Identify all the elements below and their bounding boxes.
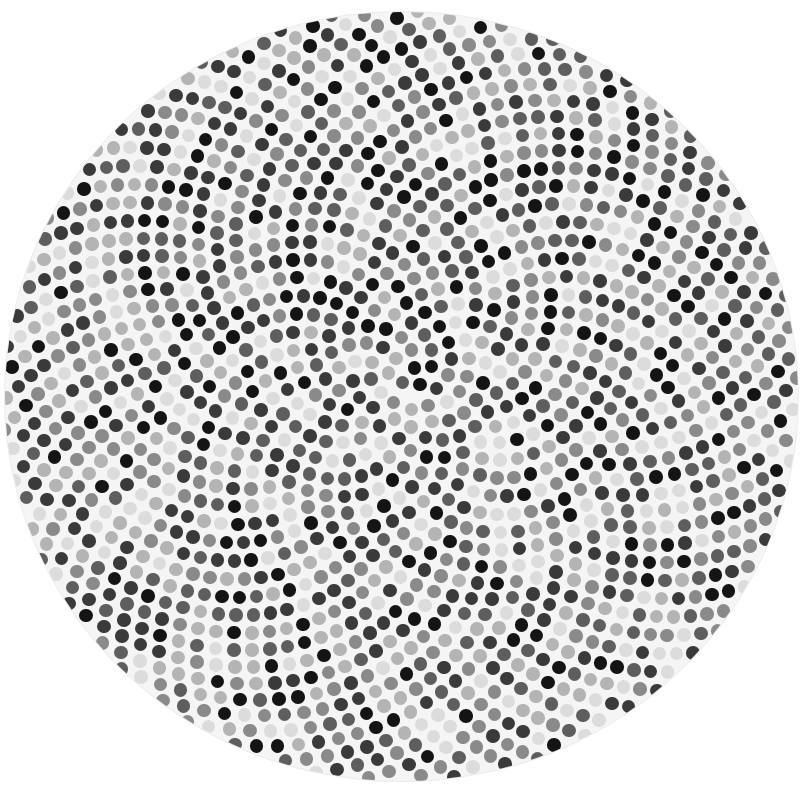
dot (10, 309, 24, 323)
dot (570, 128, 584, 142)
dot (85, 493, 99, 507)
dot (363, 626, 377, 640)
dot (428, 527, 442, 541)
dot (506, 591, 520, 605)
dot (636, 408, 650, 422)
dot (457, 501, 471, 515)
dot (51, 349, 65, 363)
dot (172, 634, 186, 648)
dot (569, 629, 583, 643)
dot (477, 543, 491, 557)
dot (273, 86, 287, 100)
dot (762, 317, 776, 331)
dot (332, 732, 346, 746)
dot (132, 122, 146, 136)
dot (301, 484, 315, 498)
dot (254, 534, 268, 548)
dot (415, 288, 429, 302)
dot (555, 453, 569, 467)
dot (106, 288, 120, 302)
dot (454, 211, 468, 225)
dot (377, 499, 391, 513)
dot (565, 234, 579, 248)
dot (104, 216, 118, 230)
dot (266, 587, 280, 601)
dot (365, 356, 379, 370)
dot (409, 738, 423, 752)
dot (521, 323, 535, 337)
dot (247, 153, 261, 167)
dot (192, 238, 206, 252)
dot (187, 413, 201, 427)
dot (228, 554, 242, 568)
dot (642, 521, 656, 535)
dot (133, 654, 147, 668)
dot (722, 468, 736, 482)
dot (672, 394, 686, 408)
dot (383, 450, 397, 464)
dot (57, 305, 71, 319)
dot (374, 386, 388, 400)
dot (184, 166, 198, 180)
dot (640, 336, 654, 350)
dot (411, 12, 425, 18)
dot (667, 289, 681, 303)
dot (692, 204, 706, 218)
dot (415, 718, 429, 732)
dot (369, 644, 383, 658)
dot (526, 667, 540, 681)
dot (585, 580, 599, 594)
dot (383, 30, 397, 44)
dot (695, 515, 709, 529)
dot (413, 35, 427, 49)
dot (557, 682, 571, 696)
dot (326, 521, 340, 535)
dot (309, 388, 323, 402)
dot (424, 83, 438, 97)
dot (229, 376, 243, 390)
dot (283, 583, 297, 597)
dot (761, 424, 775, 438)
dot (636, 646, 650, 660)
dot (602, 458, 616, 472)
dot (421, 750, 435, 764)
dot (462, 352, 476, 366)
dot (82, 593, 96, 607)
dot (603, 585, 617, 599)
dot (692, 571, 706, 585)
dot (580, 198, 594, 212)
dot (583, 81, 597, 95)
dot (153, 557, 167, 571)
dot (294, 144, 308, 158)
dot (643, 556, 657, 570)
dot (246, 385, 260, 399)
dot (569, 557, 583, 571)
dot (716, 366, 730, 380)
dot (319, 372, 333, 386)
dot (573, 216, 587, 230)
dot (589, 471, 603, 485)
dot (97, 620, 111, 634)
dot (546, 516, 560, 530)
dot (347, 522, 361, 536)
dot (258, 78, 272, 92)
dot (440, 222, 454, 236)
dot (71, 426, 85, 440)
dot (329, 157, 343, 171)
dot (377, 616, 391, 630)
dot (176, 200, 190, 214)
dot (430, 506, 444, 520)
dot (549, 565, 563, 579)
dot (540, 369, 554, 383)
dot (501, 738, 515, 752)
dot (544, 288, 558, 302)
dot (467, 86, 481, 100)
dot (743, 539, 757, 553)
dot (728, 525, 742, 539)
dot (625, 537, 639, 551)
dot (289, 202, 303, 216)
dot (608, 134, 622, 148)
dot (612, 385, 626, 399)
dot (271, 530, 285, 544)
dot (134, 443, 148, 457)
